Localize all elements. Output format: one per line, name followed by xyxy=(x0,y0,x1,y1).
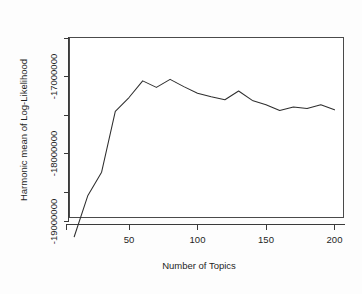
plot-panel-background xyxy=(69,37,344,217)
y-tick-label--19000000: -19000000 xyxy=(48,199,59,244)
x-axis-title: Number of Topics xyxy=(162,260,236,271)
x-tick-label-50: 50 xyxy=(124,234,135,245)
x-tick-label-150: 150 xyxy=(258,234,274,245)
line-chart-plot: 50 100 150 200 -17000000 -18000000 -1900… xyxy=(0,0,362,294)
y-tick-label--17000000: -17000000 xyxy=(48,54,59,99)
chart-figure: 50 100 150 200 -17000000 -18000000 -1900… xyxy=(0,0,362,294)
y-axis-ticks xyxy=(64,39,69,222)
x-tick-label-200: 200 xyxy=(327,234,343,245)
x-tick-label-100: 100 xyxy=(190,234,206,245)
y-tick-label--18000000: -18000000 xyxy=(48,131,59,176)
y-axis-title: Harmonic mean of Log-Likelihood xyxy=(18,59,29,201)
y-axis-tick-labels: -17000000 -18000000 -19000000 xyxy=(48,54,59,244)
x-axis-tick-labels: 50 100 150 200 xyxy=(124,234,343,245)
x-axis-ticks xyxy=(67,225,335,230)
